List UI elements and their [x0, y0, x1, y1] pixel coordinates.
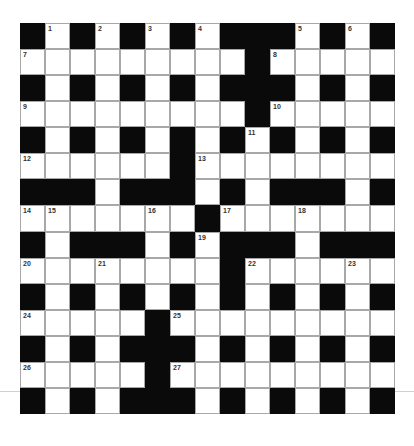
- answer-cell[interactable]: 8: [270, 49, 295, 75]
- answer-cell[interactable]: [95, 362, 120, 388]
- answer-cell[interactable]: 10: [270, 101, 295, 127]
- answer-cell[interactable]: [45, 388, 70, 414]
- answer-cell[interactable]: [45, 153, 70, 179]
- answer-cell[interactable]: [295, 388, 320, 414]
- answer-cell[interactable]: [195, 258, 220, 284]
- answer-cell[interactable]: [120, 362, 145, 388]
- answer-cell[interactable]: [95, 388, 120, 414]
- answer-cell[interactable]: 20: [20, 258, 45, 284]
- answer-cell[interactable]: 2: [95, 23, 120, 49]
- answer-cell[interactable]: [145, 284, 170, 310]
- answer-cell[interactable]: [70, 153, 95, 179]
- answer-cell[interactable]: [70, 101, 95, 127]
- answer-cell[interactable]: 3: [145, 23, 170, 49]
- answer-cell[interactable]: [370, 101, 395, 127]
- answer-cell[interactable]: [95, 284, 120, 310]
- answer-cell[interactable]: [295, 336, 320, 362]
- answer-cell[interactable]: [120, 49, 145, 75]
- answer-cell[interactable]: [370, 205, 395, 231]
- answer-cell[interactable]: [170, 258, 195, 284]
- answer-cell[interactable]: [245, 153, 270, 179]
- answer-cell[interactable]: [145, 153, 170, 179]
- answer-cell[interactable]: [45, 258, 70, 284]
- answer-cell[interactable]: [320, 205, 345, 231]
- answer-cell[interactable]: [95, 75, 120, 101]
- answer-cell[interactable]: [95, 127, 120, 153]
- answer-cell[interactable]: [295, 310, 320, 336]
- answer-cell[interactable]: [295, 49, 320, 75]
- answer-cell[interactable]: [70, 258, 95, 284]
- answer-cell[interactable]: [220, 49, 245, 75]
- answer-cell[interactable]: [145, 232, 170, 258]
- answer-cell[interactable]: [220, 362, 245, 388]
- answer-cell[interactable]: [95, 153, 120, 179]
- answer-cell[interactable]: [45, 310, 70, 336]
- answer-cell[interactable]: [345, 388, 370, 414]
- answer-cell[interactable]: [370, 362, 395, 388]
- answer-cell[interactable]: [195, 388, 220, 414]
- answer-cell[interactable]: [195, 179, 220, 205]
- answer-cell[interactable]: [345, 75, 370, 101]
- answer-cell[interactable]: [120, 258, 145, 284]
- answer-cell[interactable]: [320, 310, 345, 336]
- answer-cell[interactable]: [45, 284, 70, 310]
- answer-cell[interactable]: [170, 49, 195, 75]
- answer-cell[interactable]: [220, 101, 245, 127]
- answer-cell[interactable]: [70, 49, 95, 75]
- answer-cell[interactable]: [295, 362, 320, 388]
- answer-cell[interactable]: [345, 49, 370, 75]
- answer-cell[interactable]: 25: [170, 310, 195, 336]
- answer-cell[interactable]: [145, 49, 170, 75]
- answer-cell[interactable]: [320, 101, 345, 127]
- answer-cell[interactable]: [270, 310, 295, 336]
- answer-cell[interactable]: 5: [295, 23, 320, 49]
- answer-cell[interactable]: 4: [195, 23, 220, 49]
- answer-cell[interactable]: [245, 284, 270, 310]
- answer-cell[interactable]: 15: [45, 205, 70, 231]
- answer-cell[interactable]: [295, 101, 320, 127]
- answer-cell[interactable]: [345, 179, 370, 205]
- answer-cell[interactable]: 9: [20, 101, 45, 127]
- answer-cell[interactable]: 17: [220, 205, 245, 231]
- answer-cell[interactable]: [45, 336, 70, 362]
- answer-cell[interactable]: 12: [20, 153, 45, 179]
- answer-cell[interactable]: [370, 310, 395, 336]
- answer-cell[interactable]: [320, 362, 345, 388]
- answer-cell[interactable]: [195, 127, 220, 153]
- answer-cell[interactable]: [245, 179, 270, 205]
- answer-cell[interactable]: [95, 310, 120, 336]
- answer-cell[interactable]: [345, 284, 370, 310]
- answer-cell[interactable]: [270, 258, 295, 284]
- answer-cell[interactable]: [120, 205, 145, 231]
- answer-cell[interactable]: [345, 205, 370, 231]
- answer-cell[interactable]: [320, 49, 345, 75]
- answer-cell[interactable]: [45, 232, 70, 258]
- answer-cell[interactable]: [95, 205, 120, 231]
- answer-cell[interactable]: [45, 362, 70, 388]
- answer-cell[interactable]: [295, 153, 320, 179]
- answer-cell[interactable]: 22: [245, 258, 270, 284]
- answer-cell[interactable]: [70, 205, 95, 231]
- answer-cell[interactable]: 14: [20, 205, 45, 231]
- answer-cell[interactable]: [195, 284, 220, 310]
- answer-cell[interactable]: [145, 127, 170, 153]
- answer-cell[interactable]: 23: [345, 258, 370, 284]
- answer-cell[interactable]: [345, 336, 370, 362]
- answer-cell[interactable]: [45, 101, 70, 127]
- answer-cell[interactable]: [345, 153, 370, 179]
- answer-cell[interactable]: [295, 258, 320, 284]
- answer-cell[interactable]: [95, 179, 120, 205]
- answer-cell[interactable]: 16: [145, 205, 170, 231]
- answer-cell[interactable]: [345, 101, 370, 127]
- answer-cell[interactable]: [245, 336, 270, 362]
- answer-cell[interactable]: [195, 75, 220, 101]
- answer-cell[interactable]: [145, 258, 170, 284]
- answer-cell[interactable]: [320, 153, 345, 179]
- answer-cell[interactable]: [145, 75, 170, 101]
- answer-cell[interactable]: [220, 310, 245, 336]
- answer-cell[interactable]: [345, 127, 370, 153]
- answer-cell[interactable]: [245, 310, 270, 336]
- answer-cell[interactable]: [120, 101, 145, 127]
- answer-cell[interactable]: [70, 362, 95, 388]
- answer-cell[interactable]: [295, 127, 320, 153]
